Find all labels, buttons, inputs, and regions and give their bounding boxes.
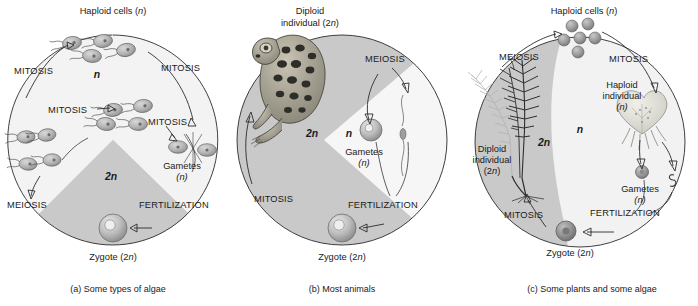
fertilization-label: FERTILIZATION xyxy=(348,200,418,210)
gametes-sublabel: (n) xyxy=(634,195,645,205)
meiosis-label: MEIOSIS xyxy=(499,52,539,62)
diploid-region-label: 2n xyxy=(305,128,318,139)
panel-c-plant-life-cycle: Haploid cells (n) 2n n xyxy=(462,0,698,306)
panel-b-animal-life-cycle: Diploid individual (2n) 2n n xyxy=(232,0,466,306)
haploid-region-label: n xyxy=(577,124,583,135)
zygote-label: Zygote (2n) xyxy=(318,252,366,262)
diploid-individual-label-2: individual (2n) xyxy=(281,18,339,28)
meiosis-label: MEIOSIS xyxy=(7,200,47,210)
gametes-sublabel: (n) xyxy=(358,158,369,168)
haploid-region-label: n xyxy=(346,128,352,139)
life-cycles-figure: Haploid cells (n) n 2n xyxy=(0,0,698,306)
diploid-region-label: 2n xyxy=(104,171,117,182)
zygote-label: Zygote (2n) xyxy=(89,252,137,262)
haploid-cells-label: Haploid cells (n) xyxy=(551,6,618,16)
mitosis-label-top: MITOSIS xyxy=(609,54,648,64)
zygote-cell xyxy=(99,214,127,242)
fertilization-label: FERTILIZATION xyxy=(139,200,209,210)
mitosis-label: MITOSIS xyxy=(254,194,293,204)
panel-c-caption: (c) Some plants and some algae xyxy=(527,284,657,294)
gametes-label: Gametes xyxy=(621,184,659,194)
mitosis-label-bottom: MITOSIS xyxy=(504,210,543,220)
mitosis-label-4: MITOSIS xyxy=(148,117,187,127)
fertilization-label: FERTILIZATION xyxy=(590,208,660,218)
gametes-sublabel: (n) xyxy=(176,172,187,182)
mitosis-label-3: MITOSIS xyxy=(48,105,87,115)
haploid-individual-label-2: individual xyxy=(603,91,642,101)
haploid-region-label: n xyxy=(94,69,100,80)
panel-b-caption: (b) Most animals xyxy=(309,284,376,294)
haploid-individual-label-1: Haploid xyxy=(606,80,638,90)
haploid-individual-label-3: (n) xyxy=(616,102,627,112)
diploid-individual-label-1: Diploid xyxy=(296,6,324,16)
meiosis-label: MEIOSIS xyxy=(365,54,405,64)
diploid-individual-label-2: individual xyxy=(473,155,512,165)
mitosis-label-1: MITOSIS xyxy=(14,66,53,76)
mitosis-label-2: MITOSIS xyxy=(161,63,200,73)
gametes-label: Gametes xyxy=(163,161,201,171)
panel-a-caption: (a) Some types of algae xyxy=(70,284,166,294)
diploid-individual-label-3: (2n) xyxy=(484,166,501,176)
diploid-region-label: 2n xyxy=(537,137,550,148)
zygote-cell xyxy=(328,214,356,242)
gametes-label: Gametes xyxy=(345,147,383,157)
gamete-egg-cell xyxy=(360,119,382,141)
panel-a-algae-life-cycle: Haploid cells (n) n 2n xyxy=(0,0,236,306)
zygote-label: Zygote (2n) xyxy=(546,248,594,258)
haploid-cells-label: Haploid cells (n) xyxy=(80,6,147,16)
zygote-cell xyxy=(556,221,576,241)
diploid-individual-label-1: Diploid xyxy=(478,144,506,154)
